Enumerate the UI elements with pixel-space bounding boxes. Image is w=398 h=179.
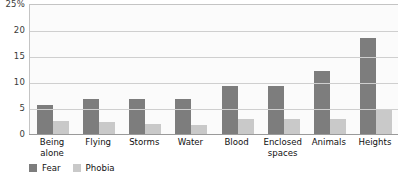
bar-fear[interactable] [129, 99, 145, 134]
y-axis-tick-label: 25% [6, 0, 26, 9]
bar-group [175, 5, 207, 134]
legend-label: Fear [42, 163, 61, 173]
bar-phobia[interactable] [284, 119, 300, 134]
y-axis: 25%20151050 [0, 0, 27, 140]
bar-phobia[interactable] [238, 119, 254, 134]
bar-fear[interactable] [222, 86, 238, 134]
category-labels: Being aloneFlyingStormsWaterBloodEnclose… [29, 137, 398, 161]
gridline [30, 57, 398, 58]
x-axis-category-label: Enclosed spaces [260, 137, 306, 158]
legend-swatch-icon [73, 164, 81, 172]
y-axis-tick-label: 0 [19, 129, 25, 139]
y-axis-tick-label: 10 [14, 77, 25, 87]
bar-phobia[interactable] [330, 119, 346, 134]
x-axis-category-label: Being alone [29, 137, 75, 158]
plot-area [29, 4, 398, 134]
y-axis-tick-label: 20 [14, 25, 25, 35]
bar-fear[interactable] [83, 99, 99, 134]
gridline [30, 83, 398, 84]
bar-group [314, 5, 346, 134]
bar-fear[interactable] [360, 38, 376, 134]
gridline [30, 31, 398, 32]
bar-phobia[interactable] [99, 122, 115, 134]
bar-group [222, 5, 254, 134]
x-axis-category-label: Animals [306, 137, 352, 148]
legend-item[interactable]: Fear [29, 163, 61, 173]
bar-fear[interactable] [314, 71, 330, 134]
x-axis-category-label: Heights [352, 137, 398, 148]
x-axis-category-label: Storms [121, 137, 167, 148]
chart-legend: FearPhobia [29, 163, 115, 173]
gridline [30, 109, 398, 110]
x-axis-baseline [29, 134, 398, 135]
legend-swatch-icon [29, 164, 37, 172]
x-axis-category-label: Water [167, 137, 213, 148]
y-axis-tick-label: 5 [19, 103, 25, 113]
bar-phobia[interactable] [191, 125, 207, 134]
bar-chart: 25%20151050 Being aloneFlyingStormsWater… [0, 0, 398, 179]
bar-phobia[interactable] [53, 121, 69, 134]
x-axis-category-label: Blood [214, 137, 260, 148]
bar-fear[interactable] [268, 86, 284, 134]
x-axis-category-label: Flying [75, 137, 121, 148]
bar-phobia[interactable] [145, 124, 161, 134]
bar-group [83, 5, 115, 134]
bar-phobia[interactable] [376, 110, 392, 134]
legend-label: Phobia [86, 163, 115, 173]
legend-item[interactable]: Phobia [73, 163, 115, 173]
y-axis-tick-label: 15 [14, 51, 25, 61]
bar-group [129, 5, 161, 134]
bar-group [37, 5, 69, 134]
bar-group [268, 5, 300, 134]
bar-fear[interactable] [175, 99, 191, 134]
bars-layer [30, 5, 398, 134]
bar-group [360, 5, 392, 134]
